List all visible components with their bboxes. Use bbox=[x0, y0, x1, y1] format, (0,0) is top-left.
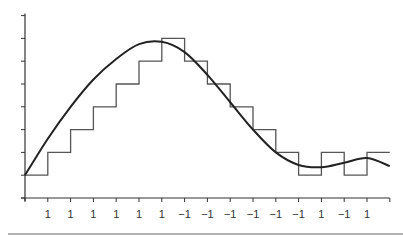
x-tick-label: 1 bbox=[90, 208, 96, 220]
x-axis-tick-labels: 111111−1−1−1−1−1−11−11 bbox=[45, 208, 370, 220]
x-tick-label: −1 bbox=[338, 208, 351, 220]
x-tick-label: −1 bbox=[247, 208, 260, 220]
x-tick-label: 1 bbox=[68, 208, 74, 220]
x-tick-label: 1 bbox=[113, 208, 119, 220]
x-tick-label: −1 bbox=[270, 208, 283, 220]
axes bbox=[21, 14, 390, 201]
x-axis-ticks bbox=[25, 198, 390, 202]
x-tick-label: −1 bbox=[292, 208, 305, 220]
x-tick-label: 1 bbox=[318, 208, 324, 220]
step-and-curve-diagram: 111111−1−1−1−1−1−11−11 bbox=[0, 0, 403, 237]
x-tick-label: −1 bbox=[201, 208, 214, 220]
x-tick-label: 1 bbox=[159, 208, 165, 220]
step-function-line bbox=[25, 38, 390, 175]
x-tick-label: −1 bbox=[224, 208, 237, 220]
x-tick-label: −1 bbox=[178, 208, 191, 220]
x-tick-label: 1 bbox=[364, 208, 370, 220]
x-tick-label: 1 bbox=[45, 208, 51, 220]
x-tick-label: 1 bbox=[136, 208, 142, 220]
